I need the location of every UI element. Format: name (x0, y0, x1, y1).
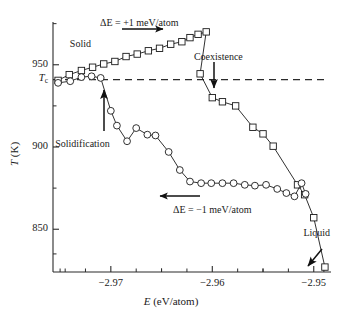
marker-circle (291, 193, 298, 200)
marker-circle (67, 78, 74, 85)
marker-circle (114, 122, 121, 129)
marker-square (123, 53, 129, 59)
marker-circle (274, 186, 281, 193)
marker-square (167, 41, 173, 47)
marker-circle (55, 79, 62, 86)
marker-circle (298, 180, 305, 187)
marker-circle (78, 74, 85, 81)
marker-square (203, 29, 209, 35)
marker-square (66, 71, 72, 77)
marker-circle (144, 131, 151, 138)
marker-square (179, 39, 185, 45)
tc-axis-label: Tc (0, 73, 48, 84)
marker-square (270, 143, 276, 149)
marker-square (78, 67, 84, 73)
y-tick-label: 950 (0, 59, 48, 70)
marker-circle (107, 107, 114, 114)
liquid-label: Liquid (262, 228, 342, 238)
x-axis-title-unit: (eV/atom) (150, 295, 198, 307)
solidification-label: Solidification (27, 139, 137, 149)
marker-square (134, 51, 140, 57)
marker-square (260, 131, 266, 137)
marker-circle (198, 180, 205, 187)
marker-circle (219, 180, 226, 187)
marker-square (219, 99, 225, 105)
marker-circle (187, 178, 194, 185)
marker-circle (97, 75, 104, 82)
marker-circle (283, 190, 290, 197)
x-axis-title: E (eV/atom) (0, 296, 342, 307)
x-tick-label: −2.97 (81, 278, 141, 289)
marker-circle (133, 125, 140, 132)
series-line-1 (58, 76, 306, 196)
heating-delta-label: ΔE = +1 meV/atom (84, 18, 194, 28)
marker-square (232, 103, 238, 109)
y-axis-title: T (K) (8, 124, 20, 184)
marker-circle (88, 73, 95, 80)
solid-label: Solid (25, 39, 135, 49)
marker-circle (230, 180, 237, 187)
marker-circle (152, 132, 159, 139)
marker-square (156, 45, 162, 51)
x-tick-label: −2.96 (182, 278, 242, 289)
marker-square (322, 264, 328, 270)
cooling-delta-label: ΔE = −1 meV/atom (157, 205, 267, 215)
marker-square (197, 71, 203, 77)
marker-circle (302, 190, 309, 197)
marker-square (145, 48, 151, 54)
x-tick-label: −2.95 (284, 278, 342, 289)
marker-circle (252, 182, 259, 189)
liquid-arrow (308, 249, 322, 266)
marker-circle (165, 149, 172, 156)
marker-square (112, 58, 118, 64)
y-axis-title-symbol: T (8, 160, 20, 166)
marker-square (209, 94, 215, 100)
marker-square (187, 34, 193, 40)
y-tick-label: 850 (0, 223, 48, 234)
marker-circle (176, 167, 183, 174)
marker-square (311, 215, 317, 221)
marker-circle (241, 181, 248, 188)
marker-circle (208, 180, 215, 187)
marker-square (89, 64, 95, 70)
marker-square (101, 61, 107, 67)
marker-square (250, 124, 256, 130)
marker-circle (263, 181, 270, 188)
coexistence-label: Coexistence (163, 52, 273, 62)
marker-square (195, 31, 201, 37)
